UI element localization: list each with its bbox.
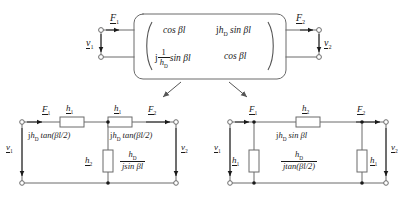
- t-label-shunt-symbol: h2: [85, 156, 92, 167]
- terminal-port2-bottom: [317, 55, 322, 60]
- pi-terminal-out-top: [384, 120, 389, 125]
- t-terminal-in-top: [20, 120, 25, 125]
- network-diagram: [0, 0, 407, 197]
- matrix-block-outline: [134, 14, 286, 79]
- label-force-1-top: F1: [110, 13, 119, 25]
- matrix-entry-m12: jhD sin βl: [216, 26, 251, 38]
- t-label-series-right-symbol: h1: [114, 104, 121, 115]
- matrix-entry-m11: cos βl: [163, 26, 185, 36]
- terminal-port2-top: [317, 28, 322, 33]
- t-value-series-left: jhD tan(βl/2): [28, 131, 70, 142]
- t-label-velocity-1: v1: [6, 143, 13, 154]
- pi-node-bottom-right: [360, 181, 364, 185]
- t-node-bottom: [106, 181, 110, 185]
- pi-label-force-1: F1: [249, 105, 257, 116]
- label-force-2-top: F2: [296, 13, 305, 25]
- pi-shunt-box-left: [249, 150, 259, 172]
- pi-value-shunt: hD jtan(βl/2): [281, 150, 317, 171]
- pi-terminal-out-bottom: [384, 181, 389, 186]
- matrix-entry-m21: j 1 hD sin βl: [155, 48, 191, 69]
- t-terminal-in-bottom: [20, 181, 25, 186]
- t-value-series-right: jhD tan(βl/2): [110, 131, 152, 142]
- t-label-force-1: F1: [42, 105, 50, 116]
- t-label-series-left-symbol: h1: [66, 104, 73, 115]
- arrow-to-pi-network: [229, 82, 247, 97]
- t-shunt-box: [103, 150, 113, 172]
- pi-series-box: [296, 117, 320, 127]
- pi-value-series: jhD sin βl: [276, 131, 307, 142]
- label-velocity-2-top: v2: [324, 38, 332, 50]
- pi-label-velocity-1: v1: [214, 143, 221, 154]
- t-label-velocity-2: v2: [181, 143, 188, 154]
- pi-shunt-box-right: [357, 150, 367, 172]
- t-series-box-right: [108, 117, 132, 127]
- terminal-port1-bottom: [99, 55, 104, 60]
- matrix-entry-m22: cos βl: [224, 52, 246, 62]
- pi-node-top-left: [252, 120, 256, 124]
- t-terminal-out-bottom: [174, 181, 179, 186]
- pi-terminal-in-bottom: [228, 181, 233, 186]
- pi-terminal-in-top: [228, 120, 233, 125]
- pi-label-force-2: F2: [357, 105, 365, 116]
- t-value-shunt: hD jsin βl: [120, 150, 145, 171]
- t-node-top: [106, 120, 110, 124]
- pi-label-velocity-2: v2: [391, 143, 398, 154]
- pi-label-shunt-right-symbol: h1: [370, 156, 377, 167]
- pi-label-series-symbol: h2: [302, 104, 309, 115]
- t-label-force-2: F2: [148, 105, 156, 116]
- terminal-port1-top: [99, 28, 104, 33]
- label-velocity-1-top: v1: [86, 38, 94, 50]
- pi-node-bottom-left: [252, 181, 256, 185]
- arrow-to-t-network: [163, 82, 181, 97]
- pi-label-shunt-left-symbol: h1: [232, 156, 239, 167]
- t-series-box-left: [60, 117, 84, 127]
- t-terminal-out-top: [174, 120, 179, 125]
